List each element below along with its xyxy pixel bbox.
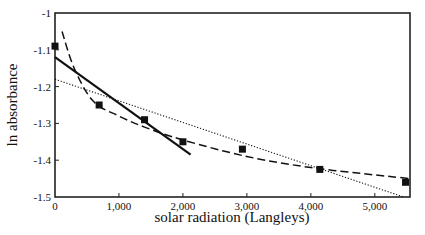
x-axis-title: solar radiation (Langleys) <box>155 209 310 226</box>
x-tick-label: 5,000 <box>362 200 387 212</box>
data-point-square <box>239 146 246 153</box>
dotted-fit-line <box>55 79 404 197</box>
y-tick-label: -1.4 <box>34 154 52 166</box>
data-point-square <box>52 43 59 50</box>
data-point-square <box>402 179 409 186</box>
y-tick-label: -1.1 <box>34 44 51 56</box>
y-tick-label: -1.5 <box>34 191 52 203</box>
data-point-square <box>141 116 148 123</box>
data-points <box>52 43 410 186</box>
x-tick-label: 1,000 <box>107 200 132 212</box>
plot-border <box>55 13 410 197</box>
chart: 01,0002,0003,0004,0005,000 -1-1.1-1.2-1.… <box>0 0 425 235</box>
fit-lines <box>55 31 410 197</box>
data-point-square <box>316 166 323 173</box>
y-axis-title: ln absorbance <box>4 63 20 146</box>
y-tick-label: -1.2 <box>34 81 51 93</box>
data-point-square <box>179 138 186 145</box>
y-tick-label: -1.3 <box>34 117 52 129</box>
y-tick-label: -1 <box>42 7 51 19</box>
data-point-square <box>96 102 103 109</box>
x-tick-label: 0 <box>52 200 58 212</box>
plot-frame <box>55 13 410 197</box>
dashed-fit-curve <box>62 31 410 178</box>
